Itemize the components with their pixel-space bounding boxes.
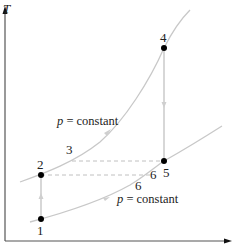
process-1-2-arrow-icon (39, 193, 44, 199)
state-label-1: 1 (37, 224, 44, 237)
ts-diagram: T 4 5 2 1 3 6 6 p = constant p = constan… (0, 0, 232, 246)
y-axis-label: T (3, 2, 10, 15)
state-label-6b: 6 (135, 179, 142, 192)
state-point-4 (161, 45, 167, 51)
upper-isobar-label: p = constant (57, 115, 118, 128)
x-axis-arrow-icon (224, 239, 232, 244)
state-label-5: 5 (163, 166, 170, 179)
upper-isobar-label-rest: = constant (63, 114, 118, 128)
state-point-2 (38, 172, 44, 178)
lower-isobar-curve (30, 126, 222, 222)
state-label-6a: 6 (150, 168, 157, 181)
process-4-5-arrow-icon (162, 102, 167, 108)
state-label-4: 4 (160, 31, 167, 44)
state-label-3: 3 (66, 143, 73, 156)
state-point-5 (161, 158, 167, 164)
state-point-1 (38, 216, 44, 222)
lower-isobar-label-rest: = constant (123, 192, 178, 206)
state-label-2: 2 (37, 158, 44, 171)
lower-isobar-label: p = constant (117, 193, 178, 206)
